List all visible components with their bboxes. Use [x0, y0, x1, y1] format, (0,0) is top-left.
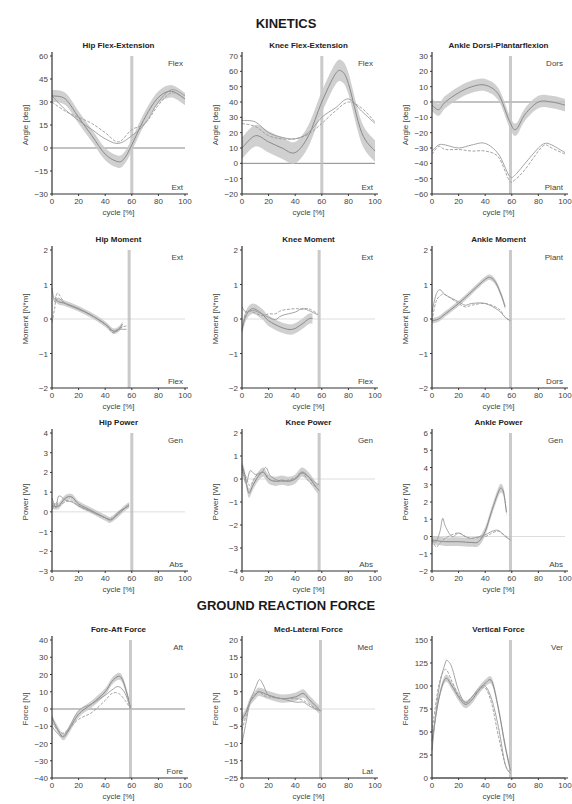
chart-svg: Ankle Moment−2−1012020406080100cycle [%]… [380, 222, 570, 414]
y-tick-label: 2 [234, 429, 239, 438]
y-tick-label: −15 [34, 167, 48, 176]
chart-title: Knee Power [286, 418, 332, 427]
y-tick-label: −5 [229, 722, 239, 731]
x-tick-label: 0 [430, 197, 435, 206]
y-tick-label: 30 [229, 113, 238, 122]
chart-knee-moment: Knee Moment−2−1012020406080100cycle [%]M… [190, 222, 380, 414]
x-tick-label: 100 [558, 391, 572, 400]
y-tick-label: 25 [419, 751, 428, 760]
y-axis-label: Power [W] [401, 484, 410, 521]
y-tick-label: 1 [44, 488, 49, 497]
y-tick-label: 10 [229, 671, 238, 680]
direction-label-top: Plant [545, 253, 564, 262]
x-tick-label: 80 [154, 391, 163, 400]
y-tick-label: −2 [39, 384, 49, 393]
y-tick-label: 75 [419, 705, 428, 714]
y-tick-label: 10 [39, 688, 48, 697]
series-line-subject-b [52, 693, 130, 734]
x-tick-label: 60 [127, 391, 136, 400]
y-tick-label: 40 [229, 98, 238, 107]
x-tick-label: 20 [264, 391, 273, 400]
x-tick-label: 40 [101, 391, 110, 400]
y-tick-label: 0 [234, 705, 239, 714]
x-axis-label: cycle [%] [102, 585, 134, 594]
x-tick-label: 60 [127, 781, 136, 790]
x-tick-label: 0 [50, 391, 55, 400]
y-tick-label: 1 [234, 281, 239, 290]
x-tick-label: 40 [481, 574, 490, 583]
grf-section-title: GROUND REACTION FORCE [0, 598, 572, 613]
y-tick-label: 0 [44, 508, 49, 517]
x-tick-label: 40 [291, 391, 300, 400]
x-tick-label: 100 [558, 197, 572, 206]
x-tick-label: 20 [74, 781, 83, 790]
chart-title: Fore-Aft Force [91, 625, 147, 634]
sd-band [52, 673, 130, 740]
direction-label-bottom: Lat [362, 767, 374, 776]
x-axis-label: cycle [%] [292, 792, 324, 801]
mean-line [432, 678, 510, 770]
y-tick-label: −1 [39, 528, 49, 537]
chart-svg: Ankle Dorsi-Plantarflexion−60−50−40−30−2… [380, 28, 570, 220]
y-tick-label: 2 [424, 498, 429, 507]
x-tick-label: 20 [74, 574, 83, 583]
y-tick-label: 0 [424, 774, 429, 783]
y-tick-label: −4 [229, 567, 239, 576]
chart-svg: Fore-Aft Force−40−30−20−1001020304002040… [0, 612, 190, 804]
y-tick-label: −1 [229, 498, 239, 507]
chart-title: Ankle Moment [471, 235, 526, 244]
sd-band [55, 296, 123, 335]
y-tick-label: −2 [419, 567, 429, 576]
x-tick-label: 100 [558, 781, 572, 790]
chart-title: Ankle Dorsi-Plantarflexion [448, 41, 548, 50]
direction-label-top: Ext [171, 253, 183, 262]
y-tick-label: −2 [229, 384, 239, 393]
y-tick-label: −20 [34, 740, 48, 749]
direction-label-bottom: Abs [169, 560, 183, 569]
y-tick-label: 0 [44, 705, 49, 714]
direction-label-bottom: Abs [359, 560, 373, 569]
x-tick-label: 40 [291, 197, 300, 206]
chart-svg: Vertical Force02550751001251500204060801… [380, 612, 570, 804]
x-tick-label: 60 [127, 574, 136, 583]
y-tick-label: 4 [424, 464, 429, 473]
y-tick-label: 0 [234, 315, 239, 324]
y-tick-label: −3 [229, 544, 239, 553]
x-axis-label: cycle [%] [482, 585, 514, 594]
y-tick-label: −10 [34, 722, 48, 731]
x-tick-label: 0 [50, 781, 55, 790]
x-tick-label: 60 [507, 781, 516, 790]
direction-label-bottom: Dors [546, 377, 563, 386]
chart-hip-power: Hip Power−3−2−101234020406080100cycle [%… [0, 405, 190, 597]
direction-label-top: Gen [548, 436, 563, 445]
y-tick-label: 6 [424, 429, 429, 438]
chart-svg: Hip Moment−2−1012020406080100cycle [%]Mo… [0, 222, 190, 414]
chart-title: Hip Moment [96, 235, 142, 244]
y-tick-label: −1 [419, 550, 429, 559]
direction-label-top: Ext [361, 253, 373, 262]
y-tick-label: 20 [229, 129, 238, 138]
x-axis-label: cycle [%] [292, 208, 324, 217]
x-axis-label: cycle [%] [482, 792, 514, 801]
y-tick-label: 20 [39, 671, 48, 680]
x-tick-label: 20 [264, 574, 273, 583]
y-axis-label: Moment [N*m] [401, 293, 410, 344]
series-line-subject-a [432, 143, 565, 178]
x-tick-label: 40 [101, 197, 110, 206]
y-axis-label: Angle [deg] [21, 105, 30, 145]
y-axis-label: Moment [N*m] [21, 293, 30, 344]
y-tick-label: 50 [419, 728, 428, 737]
y-tick-label: 15 [39, 121, 48, 130]
y-tick-label: 10 [419, 83, 428, 92]
y-tick-label: 30 [39, 653, 48, 662]
direction-label-top: Gen [168, 436, 183, 445]
x-tick-label: 20 [74, 197, 83, 206]
y-axis-label: Power [W] [211, 484, 220, 521]
y-tick-label: 30 [39, 98, 48, 107]
x-tick-label: 60 [507, 574, 516, 583]
chart-med-lateral-force: Med-Lateral Force−25−15−10−5051015200204… [190, 612, 380, 804]
sd-band [432, 79, 565, 136]
y-axis-label: Angle [deg] [211, 105, 220, 145]
y-tick-label: 100 [415, 682, 429, 691]
y-tick-label: 60 [39, 52, 48, 61]
